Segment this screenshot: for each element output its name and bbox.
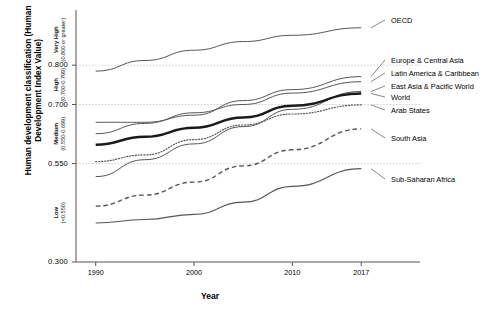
series-line	[96, 92, 362, 177]
x-axis-title: Year	[0, 291, 420, 301]
label-leader-line	[371, 94, 385, 98]
series-line	[96, 105, 362, 162]
x-tick-label: 2000	[169, 268, 219, 277]
series-line	[96, 94, 362, 145]
series-label: Sub-Saharan Africa	[391, 175, 455, 184]
axes	[72, 10, 420, 266]
series-line	[96, 77, 362, 123]
series-label: Latin America & Caribbean	[391, 69, 479, 78]
gridlines	[76, 65, 420, 163]
series-label: Arab States	[391, 106, 430, 115]
x-tick-label: 1990	[71, 268, 121, 277]
chart-canvas	[0, 0, 496, 310]
label-leader-line	[371, 129, 385, 138]
label-leader-line	[371, 169, 385, 179]
label-leader-line	[371, 86, 385, 92]
y-axis-title: Human development classification (Human …	[23, 0, 44, 185]
x-tick-label: 2010	[267, 268, 317, 277]
series-label: South Asia	[391, 134, 426, 143]
label-leader-line	[371, 105, 385, 110]
series-label: Europe & Central Asia	[391, 56, 464, 65]
label-leader-lines	[371, 20, 385, 179]
hdi-trend-chart: Human development classification (Human …	[0, 0, 496, 310]
series-label: OECD	[391, 16, 412, 25]
label-leader-line	[371, 20, 385, 28]
classification-band-label: Low(<0.550)	[53, 153, 66, 273]
series-line	[96, 129, 362, 206]
series-line	[96, 28, 362, 71]
x-tick-label: 2017	[336, 268, 386, 277]
series-label: World	[391, 93, 410, 102]
data-series	[96, 28, 362, 223]
series-label: East Asia & Pacific World	[391, 82, 474, 91]
series-line	[96, 82, 362, 134]
